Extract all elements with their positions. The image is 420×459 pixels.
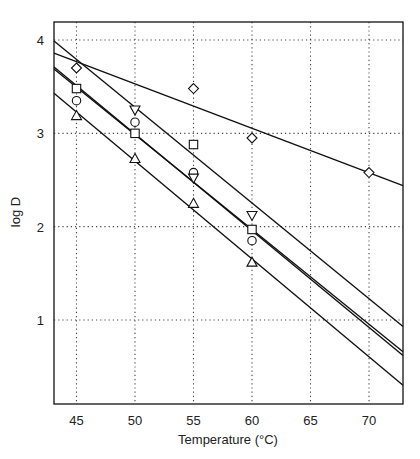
diamond-marker — [72, 63, 82, 73]
fit-line-square — [54, 67, 403, 355]
triangle-up-marker — [189, 198, 199, 207]
y-tick-label: 4 — [37, 33, 44, 48]
plot-frame — [54, 22, 403, 404]
fit-lines — [54, 41, 403, 385]
fit-line-circle — [54, 69, 403, 352]
chart: 455055606570 1234 Temperature (°C) log D — [0, 0, 420, 459]
square-marker — [131, 129, 139, 137]
x-tick-label: 50 — [128, 413, 142, 428]
square-marker — [72, 84, 80, 92]
x-tick-label: 45 — [69, 413, 83, 428]
diamond-marker — [364, 168, 374, 178]
data-markers — [72, 63, 375, 266]
grid-lines — [54, 22, 403, 404]
circle-marker — [248, 236, 256, 244]
x-tick-labels: 455055606570 — [69, 413, 376, 428]
x-axis-label: Temperature (°C) — [178, 432, 278, 447]
triangle-down-marker — [247, 211, 257, 220]
x-tick-label: 60 — [245, 413, 259, 428]
x-tick-label: 70 — [362, 413, 376, 428]
y-tick-label: 3 — [37, 126, 44, 141]
y-axis-label: log D — [8, 197, 23, 227]
square-marker — [248, 225, 256, 233]
y-tick-labels: 1234 — [37, 33, 44, 328]
circle-marker — [72, 96, 80, 104]
x-tick-label: 55 — [186, 413, 200, 428]
circle-marker — [131, 118, 139, 126]
diamond-marker — [247, 133, 257, 143]
fit-line-diamond — [54, 53, 403, 186]
y-tick-label: 2 — [37, 220, 44, 235]
fit-line-triangle-down — [54, 41, 403, 327]
x-tick-label: 65 — [303, 413, 317, 428]
square-marker — [189, 140, 197, 148]
fit-line-triangle-up — [54, 93, 403, 385]
y-tick-label: 1 — [37, 313, 44, 328]
diamond-marker — [189, 84, 199, 94]
